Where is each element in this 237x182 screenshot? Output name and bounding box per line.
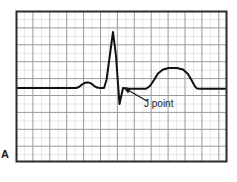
ecg-figure: J point A: [0, 0, 237, 182]
j-point-annotation-label: J point: [144, 97, 173, 110]
ecg-plot-canvas: [0, 0, 237, 182]
panel-label-a: A: [1, 147, 9, 161]
